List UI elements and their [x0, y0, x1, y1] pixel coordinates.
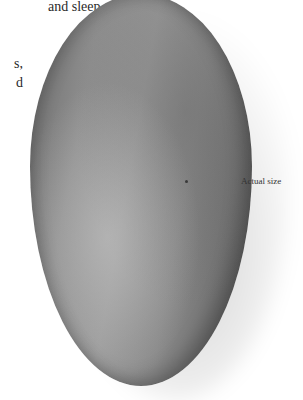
figure-caption: Actual size [241, 176, 281, 186]
egg-speck [185, 180, 188, 183]
body-text-fragment: s, [14, 55, 23, 72]
body-text-fragment: d [16, 74, 23, 91]
